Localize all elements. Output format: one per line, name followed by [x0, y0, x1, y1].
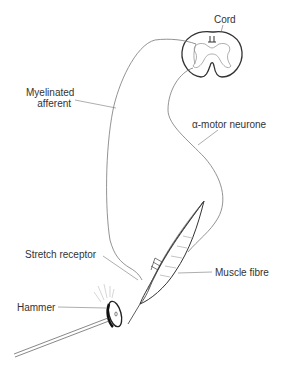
spinal-cord-icon	[182, 25, 242, 77]
reflex-diagram	[0, 0, 291, 372]
afferent-label-line2: afferent	[26, 98, 74, 109]
afferent-label-line1: Myelinated	[26, 87, 74, 98]
muscle-fibre-label: Muscle fibre	[215, 267, 269, 278]
hammer-label: Hammer	[17, 302, 55, 313]
afferent-label: Myelinated afferent	[26, 87, 74, 109]
stretch-receptor-label: Stretch receptor	[25, 249, 96, 260]
motor-neurone-label: α-motor neurone	[192, 119, 266, 130]
cord-label: Cord	[214, 14, 236, 25]
efferent-nerve	[168, 68, 223, 252]
afferent-nerve	[107, 39, 196, 280]
muscle-icon	[128, 201, 204, 324]
hammer-icon	[14, 284, 124, 357]
